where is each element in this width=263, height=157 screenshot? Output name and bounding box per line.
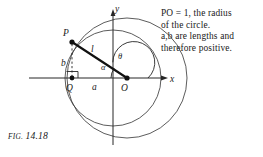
- note-line-3: a,b are lengths and: [161, 31, 261, 43]
- point-p-dot: [69, 39, 74, 44]
- figure-screenshot: y x θ α l b a P Q O PO = 1, the radius: [0, 0, 263, 157]
- point-q-dot: [70, 76, 75, 81]
- x-axis-label: x: [169, 74, 175, 84]
- figure-caption-prefix: FIG.: [8, 132, 23, 141]
- x-axis-arrow-icon: [161, 76, 168, 81]
- y-axis-label: y: [114, 4, 120, 14]
- point-o-dot: [124, 75, 129, 80]
- figure-caption-number: 14.18: [25, 130, 48, 141]
- segment-hypotenuse-label: l: [91, 44, 94, 54]
- segment-horizontal-label: a: [92, 82, 97, 92]
- angle-theta-label: θ: [118, 51, 122, 61]
- note-line-4: therefore positive.: [161, 43, 261, 55]
- point-p-label: P: [62, 28, 69, 38]
- segment-vertical-label: b: [61, 58, 66, 68]
- note-line-1: PO = 1, the radius: [161, 8, 261, 20]
- point-q-label: Q: [66, 83, 73, 93]
- figure-caption: FIG. 14.18: [8, 130, 48, 141]
- figure-notes: PO = 1, the radius of the circle. a,b ar…: [161, 8, 261, 54]
- note-line-2: of the circle.: [161, 20, 261, 32]
- point-o-label: O: [121, 83, 128, 93]
